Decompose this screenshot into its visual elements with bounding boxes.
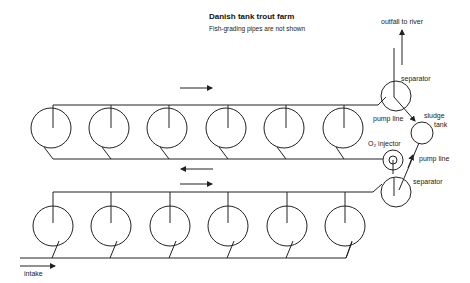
sludge-tank bbox=[411, 122, 433, 144]
separator-top bbox=[381, 81, 411, 111]
tank bbox=[267, 192, 307, 258]
tank bbox=[323, 105, 363, 159]
tank bbox=[325, 192, 365, 258]
tank bbox=[91, 192, 131, 258]
tank bbox=[33, 192, 73, 258]
sludge-label: sludge bbox=[424, 112, 445, 119]
tank bbox=[150, 192, 190, 258]
tank bbox=[208, 192, 248, 258]
tank bbox=[206, 105, 246, 159]
pump-line-top-label: pump line bbox=[373, 115, 403, 122]
diagram-subtitle: Fish-grading pipes are not shown bbox=[209, 25, 305, 32]
o2-injector-label: O₂ injector bbox=[368, 140, 401, 147]
tank bbox=[89, 105, 129, 159]
separator-bottom bbox=[381, 177, 411, 207]
tank bbox=[31, 105, 71, 159]
bottom-row-tanks bbox=[20, 184, 382, 258]
separator-top-label: separator bbox=[401, 75, 431, 82]
intake-label: intake bbox=[24, 270, 43, 277]
pump-line-bottom-label: pump line bbox=[419, 155, 449, 162]
top-row-tanks bbox=[31, 97, 386, 159]
diagram-title: Danish tank trout farm bbox=[209, 12, 294, 21]
tank-label: tank bbox=[434, 121, 447, 128]
tank bbox=[264, 105, 304, 159]
separator-bottom-label: separator bbox=[413, 178, 443, 185]
outfall-label: outfall to river bbox=[381, 18, 423, 25]
tank bbox=[147, 105, 187, 159]
